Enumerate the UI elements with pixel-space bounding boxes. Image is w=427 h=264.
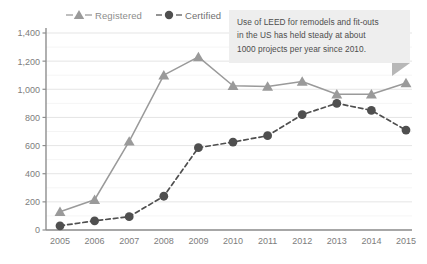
series-line-certified bbox=[60, 103, 406, 225]
x-axis-label: 2014 bbox=[361, 236, 381, 246]
y-axis-label: 800 bbox=[25, 113, 40, 123]
data-point-registered-2012 bbox=[297, 76, 308, 85]
data-point-certified-2007 bbox=[125, 212, 134, 221]
chart-legend: Registered Certified bbox=[66, 9, 221, 21]
circle-marker-icon bbox=[156, 9, 182, 21]
y-axis-label: 200 bbox=[25, 197, 40, 207]
data-point-registered-2009 bbox=[193, 52, 204, 61]
data-point-registered-2007 bbox=[124, 136, 135, 145]
data-point-certified-2006 bbox=[90, 216, 99, 225]
data-point-certified-2012 bbox=[298, 110, 307, 119]
data-point-certified-2009 bbox=[194, 143, 203, 152]
chart-container: 02004006008001,0001,2001,400200520062007… bbox=[0, 0, 427, 264]
callout-line-3: 1000 projects per year since 2010. bbox=[237, 43, 403, 56]
x-axis-label: 2005 bbox=[50, 236, 70, 246]
legend-item-registered[interactable]: Registered bbox=[66, 9, 142, 21]
data-point-certified-2010 bbox=[229, 138, 238, 147]
triangle-marker-icon bbox=[66, 9, 92, 21]
x-axis-label: 2010 bbox=[223, 236, 243, 246]
legend-label-registered: Registered bbox=[95, 10, 142, 21]
data-point-certified-2008 bbox=[159, 192, 168, 201]
x-axis-label: 2012 bbox=[292, 236, 312, 246]
data-point-certified-2014 bbox=[367, 106, 376, 115]
y-axis-label: 1,400 bbox=[17, 28, 40, 38]
data-point-certified-2011 bbox=[263, 131, 272, 140]
data-point-registered-2008 bbox=[158, 70, 169, 79]
callout-line-2: in the US has held steady at about bbox=[237, 29, 403, 42]
data-point-registered-2005 bbox=[55, 207, 66, 216]
data-point-certified-2013 bbox=[332, 99, 341, 108]
series-line-registered bbox=[60, 57, 406, 212]
y-axis-label: 600 bbox=[25, 141, 40, 151]
x-axis-label: 2009 bbox=[188, 236, 208, 246]
y-axis-label: 1,000 bbox=[17, 85, 40, 95]
y-axis-label: 400 bbox=[25, 169, 40, 179]
x-axis-label: 2011 bbox=[258, 236, 277, 246]
callout-box: Use of LEED for remodels and fit-outs in… bbox=[229, 10, 410, 63]
data-point-registered-2015 bbox=[401, 78, 412, 87]
data-point-certified-2015 bbox=[402, 126, 411, 135]
x-axis-label: 2015 bbox=[396, 236, 416, 246]
x-axis-label: 2006 bbox=[85, 236, 105, 246]
callout-pointer-icon bbox=[392, 63, 410, 76]
y-axis-label: 1,200 bbox=[17, 57, 40, 67]
data-point-registered-2006 bbox=[89, 195, 100, 204]
legend-item-certified[interactable]: Certified bbox=[156, 9, 221, 21]
data-point-certified-2005 bbox=[56, 221, 65, 230]
x-axis-label: 2007 bbox=[119, 236, 139, 246]
legend-label-certified: Certified bbox=[185, 10, 221, 21]
x-axis-label: 2013 bbox=[327, 236, 347, 246]
callout-line-1: Use of LEED for remodels and fit-outs bbox=[237, 16, 403, 29]
x-axis-label: 2008 bbox=[154, 236, 174, 246]
y-axis-label: 0 bbox=[35, 225, 40, 235]
